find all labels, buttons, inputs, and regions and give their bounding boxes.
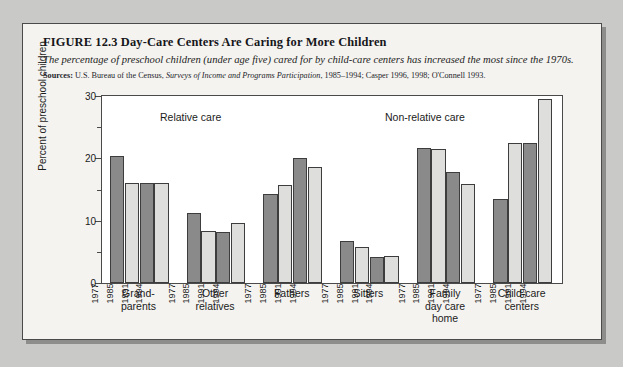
- figure-sources: Sources: U.S. Bureau of the Census, Surv…: [43, 71, 485, 80]
- bar: 1994: [308, 167, 322, 283]
- x-axis-group-label: Fathers: [249, 287, 334, 300]
- bar: 1977: [493, 199, 507, 283]
- y-axis-label: Percent of preschool children: [37, 31, 48, 181]
- x-axis-group-label-line: relatives: [173, 300, 258, 313]
- x-axis-group-label-line: home: [403, 312, 488, 325]
- figure-subtitle: The percentage of preschool children (un…: [43, 54, 574, 65]
- figure-panel: FIGURE 12.3 Day-Care Centers Are Caring …: [22, 23, 602, 340]
- annotation-relative-care: Relative care: [160, 111, 221, 123]
- x-axis-group-label-line: centers: [479, 300, 564, 313]
- y-tick-minor: [97, 252, 101, 253]
- figure-title: FIGURE 12.3 Day-Care Centers Are Caring …: [43, 35, 387, 50]
- bar-series-container: 1977198519911994197719851991199419771985…: [102, 96, 562, 283]
- x-axis-group-label-line: Sitters: [326, 287, 411, 300]
- sources-publication: Surveys of Income and Programs Participa…: [166, 71, 321, 80]
- bar-chart: Percent of preschool children 0102030 19…: [43, 87, 583, 327]
- bar: 1991: [446, 172, 460, 283]
- x-axis-group-label: Grand-parents: [96, 287, 181, 312]
- bar: 1977: [110, 156, 124, 283]
- x-axis-group-label-line: Family: [403, 287, 488, 300]
- bar: 1977: [417, 148, 431, 283]
- bar: 1994: [154, 183, 168, 283]
- sources-text-2: , 1985–1994; Casper 1996, 1998; O'Connel…: [320, 71, 485, 80]
- x-axis-group-label-line: Other: [173, 287, 258, 300]
- x-axis-group-label-line: Grand-: [96, 287, 181, 300]
- x-axis-group-label: Child-carecenters: [479, 287, 564, 312]
- bar: 1985: [508, 143, 522, 283]
- panel-inner: FIGURE 12.3 Day-Care Centers Are Caring …: [23, 24, 601, 339]
- bar: 1994: [461, 184, 475, 283]
- figure-page: FIGURE 12.3 Day-Care Centers Are Caring …: [0, 0, 623, 367]
- bar: 1994: [538, 99, 552, 283]
- bar: 1977: [263, 194, 277, 283]
- annotation-non-relative-care: Non-relative care: [385, 111, 465, 123]
- x-axis-group-label-line: parents: [96, 300, 181, 313]
- x-axis-group-label: Sitters: [326, 287, 411, 300]
- y-tick-label: 30: [85, 91, 101, 102]
- x-axis-group-label-line: Child-care: [479, 287, 564, 300]
- x-axis-group-label-line: Fathers: [249, 287, 334, 300]
- bar: 1985: [431, 149, 445, 283]
- y-tick-minor: [97, 127, 101, 128]
- x-axis-group-label-line: day care: [403, 300, 488, 313]
- y-tick-minor: [97, 190, 101, 191]
- x-axis-group-label: Otherrelatives: [173, 287, 258, 312]
- bar: 1991: [293, 158, 307, 283]
- x-axis-group-label: Familyday carehome: [403, 287, 488, 325]
- bar: 1985: [278, 185, 292, 283]
- y-tick-label: 20: [85, 153, 101, 164]
- bar: 1985: [125, 183, 139, 283]
- bar: 1991: [140, 183, 154, 283]
- y-tick-label: 10: [85, 215, 101, 226]
- sources-text-1: U.S. Bureau of the Census,: [73, 71, 166, 80]
- bar: 1991: [523, 143, 537, 283]
